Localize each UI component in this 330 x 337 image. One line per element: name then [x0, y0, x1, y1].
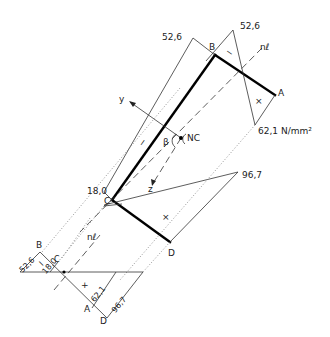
stress-label-D: 96,7: [242, 170, 262, 180]
point-label-C: C: [104, 196, 110, 206]
point-label-B: B: [209, 42, 215, 52]
lower-point-label-B: B: [36, 240, 42, 250]
y-axis: [130, 102, 181, 138]
z-axis-label: z: [148, 184, 153, 194]
sign-flange-top: −: [224, 46, 236, 59]
stress-label-B-flange: 52,6: [240, 21, 260, 31]
sign-flange-bottom: ×: [162, 212, 170, 222]
lower-sign-tension: +: [81, 280, 89, 290]
angle-beta-label: β: [163, 137, 169, 147]
stress-label-C: 18,0: [87, 186, 107, 196]
projection-line-B: [42, 88, 180, 252]
y-axis-label: y: [119, 94, 125, 104]
lower-point-label-D: D: [100, 316, 107, 326]
neutral-axis-label: nℓ: [260, 42, 269, 52]
point-label-D: D: [168, 248, 175, 258]
lower-stress-label-A: 62,1: [89, 284, 107, 303]
section-flange-top: [215, 55, 275, 95]
lower-neutral-axis: [54, 235, 100, 290]
point-label-A: A: [278, 88, 285, 98]
sign-flange-top-right: ×: [255, 96, 263, 106]
y-axis-arrowhead: [129, 101, 136, 107]
section-web: [112, 55, 215, 200]
lower-neutral-point: [62, 270, 65, 273]
lower-point-label-A: A: [84, 304, 91, 314]
stress-diagram: B A C D 52,6 52,6 62,1 N/mm² 18,0 96,7 n…: [0, 0, 330, 337]
lower-stress-label-D: 96,7: [110, 295, 128, 314]
sign-web-top: −: [136, 136, 149, 148]
nc-arc: [183, 134, 186, 144]
projection-line-D: [143, 242, 170, 272]
neutral-axis-label-lower: nℓ: [87, 232, 96, 242]
neutral-center-label: NC: [187, 133, 200, 143]
stress-label-B-web: 52,6: [162, 32, 182, 42]
stress-label-A: 62,1 N/mm²: [258, 126, 312, 136]
projection-line-A: [120, 125, 255, 280]
web-stress-block: [104, 38, 215, 200]
